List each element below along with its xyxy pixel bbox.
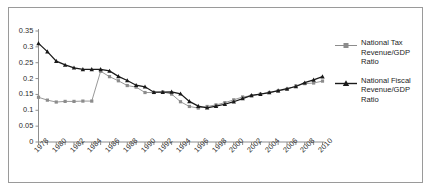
y-tick-label: 0.15 bbox=[19, 89, 34, 98]
legend-swatch-square-line bbox=[335, 41, 357, 50]
legend-label-tax-ratio: National Tax Revenue/GDP Ratio bbox=[361, 38, 417, 67]
y-tick-label: 0.05 bbox=[19, 121, 34, 130]
data-series-group bbox=[36, 41, 324, 110]
legend-swatch-triangle-line bbox=[335, 79, 357, 88]
y-tick-label: 0.3 bbox=[23, 42, 34, 51]
legend-entry-fiscal-ratio: National Fiscal Revenue/GDP Ratio bbox=[335, 76, 417, 105]
axes bbox=[36, 29, 325, 145]
y-tick-label: 0.2 bbox=[23, 74, 34, 83]
y-tick-label: 0.1 bbox=[23, 105, 34, 114]
chart-figure: 00.050.10.150.20.250.30.35 1978198019821… bbox=[0, 0, 433, 193]
legend-label-fiscal-ratio: National Fiscal Revenue/GDP Ratio bbox=[361, 76, 417, 105]
legend-entry-tax-ratio: National Tax Revenue/GDP Ratio bbox=[335, 38, 417, 67]
y-tick-label: 0.35 bbox=[19, 26, 34, 35]
y-tick-label: 0.25 bbox=[19, 58, 34, 67]
y-tick-label: 0 bbox=[29, 137, 33, 146]
chart-legend: National Tax Revenue/GDP Ratio National … bbox=[335, 38, 417, 114]
